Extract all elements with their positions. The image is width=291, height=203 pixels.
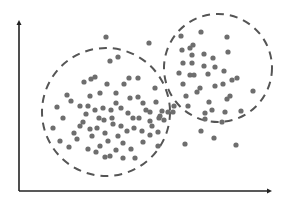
cluster-left-point	[124, 128, 129, 133]
cluster-left-point	[139, 128, 144, 133]
cluster-left-point	[135, 75, 140, 80]
outlier-point	[233, 142, 238, 147]
cluster-left-point	[161, 117, 166, 122]
cluster-left-point	[94, 125, 99, 130]
cluster-left-point	[85, 146, 90, 151]
cluster-right-point	[201, 63, 206, 68]
cluster-left-point	[85, 103, 90, 108]
outlier-point	[152, 85, 157, 90]
cluster-right-point	[210, 55, 215, 60]
cluster-right-point	[212, 64, 217, 69]
outlier-point	[103, 34, 108, 39]
cluster-right-point	[201, 51, 206, 56]
cluster-left-point	[110, 121, 115, 126]
cluster-right-point	[179, 47, 184, 52]
cluster-left-point	[130, 115, 135, 120]
cluster-left-point	[128, 146, 133, 151]
cluster-left-point	[120, 155, 125, 160]
cluster-left-point	[113, 100, 118, 105]
cluster-right-point	[176, 70, 181, 75]
cluster-right-point	[238, 108, 243, 113]
cluster-right-point	[227, 93, 232, 98]
cluster-left-point	[107, 58, 112, 63]
plot-area	[42, 14, 272, 176]
y-axis-arrow-icon	[17, 20, 22, 25]
cluster-left-point	[92, 107, 97, 112]
cluster-left-point	[121, 81, 126, 86]
outlier-point	[198, 128, 203, 133]
outlier-point	[165, 109, 170, 114]
data-points	[50, 29, 255, 160]
cluster-right-point	[191, 72, 196, 77]
cluster-left-point	[100, 105, 105, 110]
cluster-right-point	[222, 109, 227, 114]
cluster-right-point	[205, 71, 210, 76]
cluster-right-point	[187, 45, 192, 50]
cluster-left-point	[77, 123, 82, 128]
cluster-left-point	[54, 104, 59, 109]
cluster-left-point	[60, 115, 65, 120]
cluster-left-point	[93, 149, 98, 154]
cluster-right-point	[221, 68, 226, 73]
cluster-right-point	[183, 93, 188, 98]
cluster-left-point	[113, 90, 118, 95]
cluster-right-point	[180, 60, 185, 65]
cluster-left-point	[81, 79, 86, 84]
cluster-right-point	[170, 109, 175, 114]
cluster-left-point	[147, 109, 152, 114]
cluster-left-point	[108, 107, 113, 112]
cluster-right-point	[234, 75, 239, 80]
cluster-right-point	[178, 33, 183, 38]
cluster-left-point	[153, 99, 158, 104]
cluster-left-point	[120, 140, 125, 145]
cluster-left-point	[74, 136, 79, 141]
cluster-left-point	[68, 98, 73, 103]
cluster-left-point	[102, 130, 107, 135]
cluster-left-point	[71, 130, 76, 135]
cluster-left-point	[109, 115, 114, 120]
cluster-right-point	[198, 29, 203, 34]
cluster-left-point	[131, 125, 136, 130]
cluster-left-point	[88, 76, 93, 81]
cluster-left-point	[127, 95, 132, 100]
cluster-right-point	[229, 77, 234, 82]
cluster-right-point	[224, 34, 229, 39]
outlier-point	[182, 141, 187, 146]
cluster-left-point	[89, 133, 94, 138]
cluster-left-point	[57, 138, 62, 143]
cluster-left-point	[96, 115, 101, 120]
cluster-left-point	[113, 147, 118, 152]
cluster-left-point	[159, 108, 164, 113]
cluster-right-point	[206, 99, 211, 104]
cluster-left-point	[125, 110, 130, 115]
x-axis-arrow-icon	[267, 189, 272, 194]
cluster-left-point	[83, 111, 88, 116]
scatter-chart	[0, 0, 291, 203]
cluster-left-point	[87, 126, 92, 131]
cluster-left-point	[97, 143, 102, 148]
cluster-left-point	[155, 143, 160, 148]
cluster-left-point	[140, 139, 145, 144]
cluster-left-point	[64, 92, 69, 97]
cluster-left-point	[66, 144, 71, 149]
cluster-left-point	[102, 154, 107, 159]
cluster-left-point	[107, 153, 112, 158]
cluster-left-point	[147, 132, 152, 137]
cluster-left-point	[147, 118, 152, 123]
cluster-left-point	[77, 103, 82, 108]
cluster-left-point	[118, 123, 123, 128]
cluster-right-point	[202, 116, 207, 121]
cluster-left-point	[115, 54, 120, 59]
cluster-left-point	[149, 123, 154, 128]
cluster-boundaries	[42, 14, 272, 176]
cluster-right-boundary	[164, 14, 272, 122]
outlier-point	[211, 135, 216, 140]
cluster-right-point	[202, 110, 207, 115]
cluster-right-point	[250, 88, 255, 93]
cluster-right-point	[219, 119, 224, 124]
cluster-left-point	[87, 93, 92, 98]
cluster-right-point	[189, 60, 194, 65]
cluster-left-point	[118, 105, 123, 110]
cluster-left-point	[135, 94, 140, 99]
cluster-left-point	[140, 100, 145, 105]
